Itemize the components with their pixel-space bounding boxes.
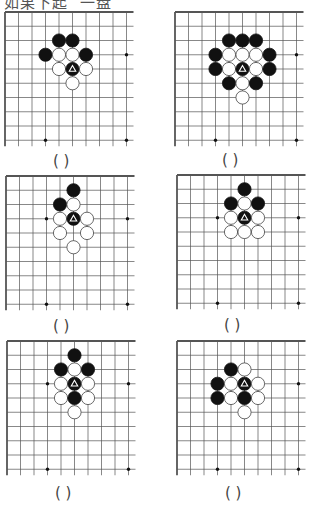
answer-blank[interactable]: ( ) <box>53 317 69 335</box>
star-point <box>46 382 49 385</box>
black-stone[interactable] <box>238 211 251 224</box>
white-stone[interactable] <box>67 198 80 211</box>
black-stone[interactable] <box>211 377 224 390</box>
white-stone[interactable] <box>68 363 81 376</box>
black-stone[interactable] <box>238 183 251 196</box>
white-stone[interactable] <box>251 377 264 390</box>
answer-blank[interactable]: ( ) <box>225 484 241 502</box>
star-point <box>295 139 298 142</box>
white-stone[interactable] <box>251 225 264 238</box>
star-point <box>127 468 130 471</box>
star-point <box>216 302 219 305</box>
answer-blank[interactable]: ( ) <box>224 316 240 334</box>
white-stone[interactable] <box>224 211 237 224</box>
white-stone[interactable] <box>224 391 237 404</box>
white-stone[interactable] <box>249 48 262 61</box>
white-stone[interactable] <box>52 62 65 75</box>
black-stone[interactable] <box>236 62 249 75</box>
answer-blank[interactable]: ( ) <box>55 484 71 502</box>
black-stone[interactable] <box>79 48 92 61</box>
white-stone[interactable] <box>53 226 66 239</box>
white-stone[interactable] <box>236 77 249 90</box>
star-point <box>126 217 129 220</box>
black-stone[interactable] <box>81 363 94 376</box>
star-point <box>45 217 48 220</box>
star-point <box>297 302 300 305</box>
black-stone[interactable] <box>67 184 80 197</box>
star-point <box>216 468 219 471</box>
black-stone[interactable] <box>238 391 251 404</box>
go-board-3 <box>6 176 135 310</box>
black-stone[interactable] <box>54 363 67 376</box>
black-stone[interactable] <box>236 34 249 47</box>
black-stone[interactable] <box>249 77 262 90</box>
answer-blank[interactable]: ( ) <box>53 152 69 170</box>
white-stone[interactable] <box>249 62 262 75</box>
black-stone[interactable] <box>209 48 222 61</box>
star-point <box>127 382 130 385</box>
black-stone[interactable] <box>238 377 251 390</box>
black-stone[interactable] <box>52 34 65 47</box>
white-stone[interactable] <box>224 377 237 390</box>
white-stone[interactable] <box>80 212 93 225</box>
go-board-5 <box>7 341 136 475</box>
white-stone[interactable] <box>222 62 235 75</box>
white-stone[interactable] <box>238 225 251 238</box>
black-stone[interactable] <box>211 391 224 404</box>
white-stone[interactable] <box>53 212 66 225</box>
white-stone[interactable] <box>66 48 79 61</box>
white-stone[interactable] <box>54 377 67 390</box>
black-stone[interactable] <box>209 62 222 75</box>
white-stone[interactable] <box>79 62 92 75</box>
go-board-1 <box>5 12 134 146</box>
star-point <box>216 216 219 219</box>
black-stone[interactable] <box>263 48 276 61</box>
white-stone[interactable] <box>236 91 249 104</box>
white-stone[interactable] <box>66 77 79 90</box>
white-stone[interactable] <box>224 225 237 238</box>
star-point <box>125 139 128 142</box>
white-stone[interactable] <box>222 48 235 61</box>
black-stone[interactable] <box>68 377 81 390</box>
white-stone[interactable] <box>238 406 251 419</box>
black-stone[interactable] <box>263 62 276 75</box>
black-stone[interactable] <box>67 212 80 225</box>
white-stone[interactable] <box>81 391 94 404</box>
star-point <box>297 216 300 219</box>
black-stone[interactable] <box>222 34 235 47</box>
white-stone[interactable] <box>54 391 67 404</box>
white-stone[interactable] <box>238 363 251 376</box>
white-stone[interactable] <box>251 211 264 224</box>
white-stone[interactable] <box>236 48 249 61</box>
black-stone[interactable] <box>222 77 235 90</box>
white-stone[interactable] <box>81 377 94 390</box>
black-stone[interactable] <box>39 48 52 61</box>
white-stone[interactable] <box>67 241 80 254</box>
black-stone[interactable] <box>251 197 264 210</box>
go-problem-sheet: ( )( )( )( )( )( ) <box>0 0 312 506</box>
go-board-2 <box>175 12 304 146</box>
black-stone[interactable] <box>66 62 79 75</box>
black-stone[interactable] <box>68 391 81 404</box>
star-point <box>45 303 48 306</box>
white-stone[interactable] <box>68 406 81 419</box>
star-point <box>297 468 300 471</box>
black-stone[interactable] <box>249 34 262 47</box>
star-point <box>214 139 217 142</box>
black-stone[interactable] <box>66 34 79 47</box>
white-stone[interactable] <box>80 226 93 239</box>
star-point <box>125 53 128 56</box>
white-stone[interactable] <box>238 197 251 210</box>
black-stone[interactable] <box>68 349 81 362</box>
go-board-4 <box>177 175 306 309</box>
star-point <box>295 53 298 56</box>
black-stone[interactable] <box>224 197 237 210</box>
star-point <box>126 303 129 306</box>
black-stone[interactable] <box>53 198 66 211</box>
star-point <box>44 139 47 142</box>
star-point <box>297 382 300 385</box>
white-stone[interactable] <box>251 391 264 404</box>
answer-blank[interactable]: ( ) <box>222 151 238 169</box>
white-stone[interactable] <box>52 48 65 61</box>
black-stone[interactable] <box>224 363 237 376</box>
